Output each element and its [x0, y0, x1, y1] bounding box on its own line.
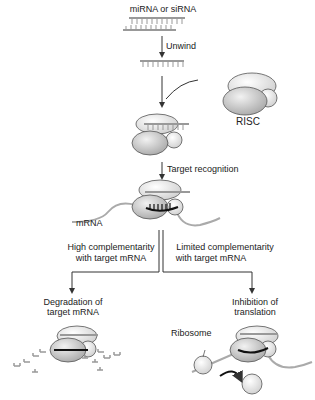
right-condition-line2: with target mRNA — [166, 253, 256, 263]
rnai-pathway-diagram — [0, 0, 315, 400]
ribosome-icon — [194, 356, 212, 374]
target-recognition-label: Target recognition — [167, 164, 239, 174]
ribosome-label: Ribosome — [171, 328, 212, 338]
left-outcome-line2: target mRNA — [28, 307, 118, 317]
degradation-complex-icon — [14, 326, 120, 372]
single-strand-rna-icon — [140, 61, 184, 67]
right-outcome-line2: translation — [210, 307, 300, 317]
right-condition-line1: Limited complementarity — [166, 242, 284, 252]
risc-join-line — [166, 80, 198, 99]
mrna-label: mRNA — [76, 218, 103, 228]
right-outcome-line1: Inhibition of — [210, 297, 300, 307]
duplex-rna-icon — [123, 18, 185, 30]
loaded-risc-icon — [132, 114, 189, 155]
left-condition-line1: High complementarity — [62, 242, 160, 252]
risc-complex-icon — [223, 73, 277, 115]
title-label: miRNA or siRNA — [120, 4, 206, 14]
risc-label: RISC — [236, 117, 260, 127]
left-outcome-line1: Degradation of — [28, 297, 118, 307]
left-condition-line2: with target mRNA — [62, 253, 160, 263]
unwind-label: Unwind — [166, 41, 196, 51]
